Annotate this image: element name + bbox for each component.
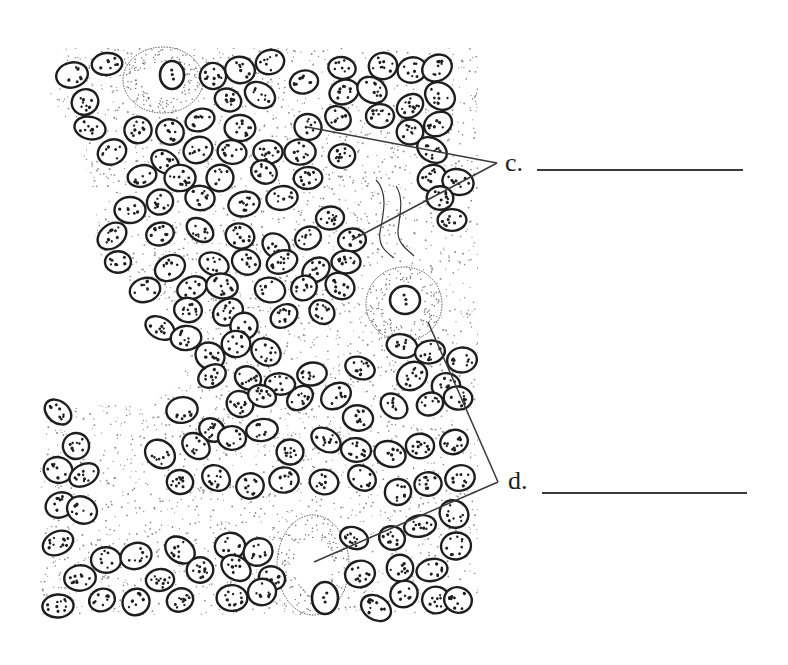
small-cell — [246, 333, 286, 372]
small-cell — [326, 75, 362, 108]
small-cell — [234, 471, 266, 501]
diagram-canvas — [0, 0, 788, 665]
small-cell — [86, 585, 118, 615]
label-d: d. — [508, 468, 528, 494]
small-cell — [376, 388, 412, 423]
small-cell — [308, 468, 340, 497]
small-cell — [332, 251, 361, 274]
small-cell — [39, 526, 78, 560]
small-cell — [91, 547, 122, 574]
label-c: c. — [505, 150, 523, 176]
small-cell — [253, 275, 287, 305]
small-cell — [441, 584, 475, 616]
small-cell — [266, 299, 301, 332]
answer-blank-d[interactable] — [542, 492, 747, 494]
small-cell — [40, 394, 76, 429]
small-cell — [182, 105, 217, 135]
small-cell — [42, 593, 75, 618]
small-cell — [54, 59, 91, 91]
small-cell — [406, 433, 435, 458]
small-cell — [216, 138, 249, 166]
small-cell — [144, 219, 177, 248]
small-cell — [172, 296, 204, 325]
small-cell — [182, 213, 218, 247]
small-cell — [67, 84, 103, 119]
small-cell — [139, 434, 180, 474]
small-cell — [228, 245, 264, 279]
small-cell — [342, 353, 378, 384]
small-cell — [217, 425, 247, 451]
tissue-diagram: c. d. — [0, 0, 788, 665]
small-cell — [321, 101, 356, 134]
small-cell — [114, 197, 145, 224]
small-cell — [223, 54, 257, 85]
small-cell — [226, 188, 263, 220]
small-cell — [380, 474, 416, 510]
small-cell — [326, 55, 357, 82]
small-cell — [343, 460, 380, 496]
small-cell — [105, 251, 131, 273]
small-cell — [340, 436, 373, 463]
small-cell — [387, 554, 414, 581]
small-cell — [446, 346, 479, 374]
answer-blank-c[interactable] — [537, 169, 743, 171]
small-cell — [145, 568, 175, 593]
small-cell — [437, 426, 471, 458]
large-cell-bottom — [277, 515, 349, 615]
small-cell — [63, 564, 97, 593]
large-cell-center-right — [366, 267, 442, 341]
small-cell — [327, 142, 357, 169]
small-cell — [305, 295, 339, 329]
small-cell — [179, 132, 217, 168]
small-cell — [284, 139, 316, 165]
small-cell — [204, 271, 239, 301]
small-cell — [288, 68, 321, 97]
wavy-fibers — [376, 180, 414, 258]
small-cell — [124, 116, 153, 144]
small-cell — [442, 462, 477, 495]
small-cell — [315, 205, 346, 231]
small-cell — [91, 51, 124, 76]
small-cell — [223, 220, 258, 252]
small-cell — [415, 556, 450, 584]
small-cell — [224, 115, 255, 142]
small-cell — [365, 103, 394, 128]
small-cell — [153, 116, 186, 147]
small-cell — [216, 584, 248, 611]
small-cell — [341, 403, 375, 433]
small-cell — [371, 437, 409, 471]
small-cell — [265, 184, 300, 212]
small-cell — [293, 166, 323, 190]
small-cell — [268, 465, 301, 494]
small-cell — [245, 417, 279, 443]
small-cell — [437, 209, 466, 231]
small-cell — [72, 114, 108, 143]
small-cell — [94, 135, 131, 170]
small-cell — [117, 539, 155, 573]
small-cell — [413, 471, 443, 498]
small-cell — [276, 439, 304, 466]
small-cell — [221, 330, 251, 358]
large-cell-top-left — [123, 47, 203, 113]
small-cell — [392, 89, 427, 123]
